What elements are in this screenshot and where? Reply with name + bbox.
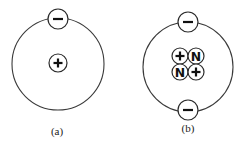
proton <box>49 54 67 72</box>
plus-sign-icon <box>195 68 197 77</box>
minus-sign-icon <box>183 109 193 111</box>
atom-panel-a: (a) <box>12 9 104 138</box>
neutron-label: N <box>191 49 201 64</box>
atom-diagram: (a)NN(b) <box>0 0 251 147</box>
panel-caption: (a) <box>51 125 64 138</box>
electron <box>48 9 68 29</box>
plus-sign-icon <box>57 59 59 68</box>
panel-caption: (b) <box>182 122 195 135</box>
electron <box>178 12 198 32</box>
minus-sign-icon <box>183 21 193 23</box>
proton <box>172 48 188 64</box>
atom-panel-b: NN(b) <box>143 12 233 135</box>
electron-orbit <box>143 22 233 112</box>
plus-sign-icon <box>179 52 181 61</box>
neutron: N <box>172 64 188 80</box>
proton <box>188 64 204 80</box>
electron <box>178 100 198 120</box>
minus-sign-icon <box>53 18 63 20</box>
neutron-label: N <box>175 65 185 80</box>
neutron: N <box>188 48 204 64</box>
